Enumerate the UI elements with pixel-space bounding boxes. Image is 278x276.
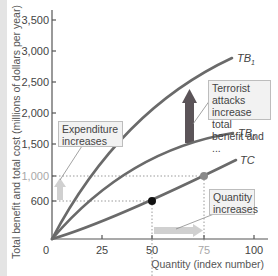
point-q50 bbox=[148, 197, 156, 205]
y-tick-2500: 2,500 bbox=[21, 76, 49, 88]
expenditure-leader-line bbox=[60, 146, 82, 180]
y-tick-3500: 3,500 bbox=[21, 14, 49, 26]
annotation-line: increases bbox=[62, 135, 119, 147]
x-axis-title: Quantity (index number) bbox=[151, 258, 264, 270]
y-tick-2000: 2,000 bbox=[21, 107, 49, 119]
annotation-line: benefit and ... bbox=[212, 130, 267, 154]
annotation-line: increases bbox=[213, 203, 251, 215]
annotation-line: Terrorist attacks bbox=[212, 82, 267, 106]
annotation-terrorist-attacks: Terrorist attacks increase total benefit… bbox=[208, 80, 271, 120]
annotation-line: increase total bbox=[212, 106, 267, 130]
expenditure-arrow-icon bbox=[54, 178, 66, 200]
y-tick-labels: 3,500 3,000 2,500 2,000 1,500 1,000 600 bbox=[21, 14, 49, 207]
x-tick-25: 25 bbox=[96, 244, 108, 256]
annotation-line: Expenditure bbox=[62, 123, 119, 135]
annotation-expenditure-increases: Expenditure increases bbox=[58, 121, 123, 147]
x-tick-75: 75 bbox=[198, 244, 210, 256]
x-tick-50: 50 bbox=[146, 244, 158, 256]
y-tick-600: 600 bbox=[31, 195, 49, 207]
x-tick-labels: 0 25 50 75 100 bbox=[43, 244, 263, 256]
quantity-arrow-icon bbox=[154, 224, 203, 237]
x-tick-100: 100 bbox=[245, 244, 263, 256]
y-tick-1500: 1,500 bbox=[21, 138, 49, 150]
y-tick-3000: 3,000 bbox=[21, 45, 49, 57]
curve-tb0 bbox=[52, 133, 233, 239]
y-axis-title: Total benefit and total cost (millions o… bbox=[10, 5, 22, 259]
point-q75 bbox=[200, 172, 208, 180]
annotation-quantity-increases: Quantity increases bbox=[209, 189, 255, 215]
label-tb1: TB1 bbox=[237, 52, 255, 66]
x-tick-0: 0 bbox=[43, 244, 49, 256]
label-tc: TC bbox=[240, 154, 255, 166]
y-tick-1000: 1,000 bbox=[21, 170, 49, 182]
tb-shift-arrow-icon bbox=[182, 89, 197, 143]
annotation-line: Quantity bbox=[213, 191, 251, 203]
